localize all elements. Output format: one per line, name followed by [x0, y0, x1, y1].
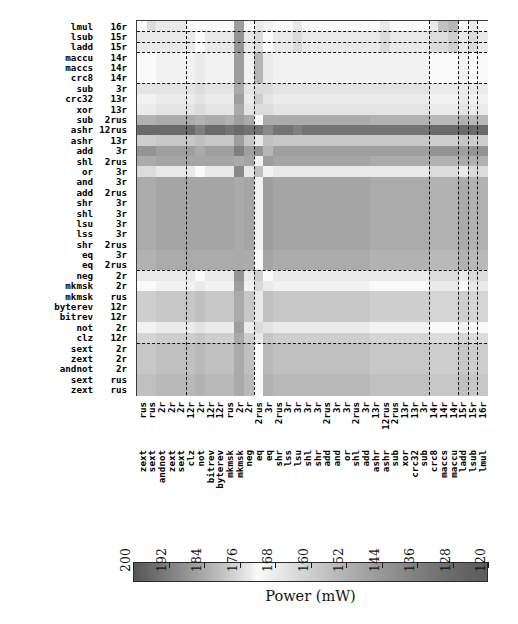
row-label: andnot2r: [0, 363, 130, 374]
row-label: shr2rus: [0, 239, 130, 250]
row-label-op: maccu: [65, 52, 93, 63]
row-label-size: 14r: [110, 72, 127, 83]
row-label: xor13r: [0, 104, 130, 115]
row-label-op: zext: [71, 384, 93, 395]
dashed-row-separator: [137, 270, 487, 271]
heatmap-plot[interactable]: [136, 20, 488, 396]
row-label-size: 3r: [116, 228, 127, 239]
row-label-op: xor: [76, 104, 93, 115]
row-label: add3r: [0, 145, 130, 156]
heatmap-cell: [477, 156, 487, 167]
heatmap-cell: [477, 187, 487, 198]
row-label-op: mkmsk: [65, 291, 93, 302]
heatmap-cell: [477, 364, 487, 375]
row-label-size: 12rus: [99, 124, 127, 135]
column-label-size: 16r: [476, 402, 487, 419]
row-label-op: add: [76, 145, 93, 156]
row-label-op: mkmsk: [65, 280, 93, 291]
heatmap-cell: [477, 104, 487, 115]
row-label-op: bitrev: [60, 311, 93, 322]
heatmap-cell: [477, 281, 487, 292]
row-label: bitrev12r: [0, 311, 130, 322]
heatmap-cell: [477, 374, 487, 385]
row-label-size: 2rus: [105, 156, 127, 167]
row-label: lsub15r: [0, 31, 130, 42]
heatmap-cell: [477, 31, 487, 42]
dashed-col-separator: [468, 21, 469, 395]
row-label-op: shr: [76, 239, 93, 250]
row-label-size: 15r: [110, 41, 127, 52]
dashed-col-separator: [477, 21, 478, 395]
row-label-size: 13r: [110, 104, 127, 115]
row-label-size: 14r: [110, 62, 127, 73]
heatmap-cell: [477, 83, 487, 94]
row-label: add2rus: [0, 187, 130, 198]
colorbar-tick-label: 136: [402, 540, 417, 580]
heatmap-cell: [477, 229, 487, 240]
row-label-size: 2r: [116, 280, 127, 291]
row-label-size: 2r: [116, 353, 127, 364]
row-label: eq3r: [0, 249, 130, 260]
colorbar-tick-label: 152: [331, 540, 346, 580]
heatmap-cell: [477, 312, 487, 323]
heatmap-cell: [477, 125, 487, 136]
row-label-size: 2rus: [105, 259, 127, 270]
heatmap-cell: [477, 115, 487, 126]
row-label: mkmskrus: [0, 291, 130, 302]
dashed-col-separator: [254, 21, 255, 395]
heatmap-cells: [137, 21, 487, 395]
colorbar-tick: [133, 562, 134, 568]
colorbar-tick-label: 184: [189, 540, 204, 580]
row-label-size: 3r: [116, 166, 127, 177]
heatmap-cell: [477, 63, 487, 74]
row-label-op: lsub: [71, 31, 93, 42]
colorbar-tick: [488, 562, 489, 568]
colorbar-tick-label: 192: [154, 540, 169, 580]
row-label-op: ashr: [71, 124, 93, 135]
row-label: ladd15r: [0, 41, 130, 52]
row-label-size: 3r: [116, 249, 127, 260]
heatmap-cell: [477, 146, 487, 157]
heatmap-cell: [477, 21, 487, 32]
dashed-row-separator: [137, 52, 487, 53]
row-label-size: rus: [110, 384, 127, 395]
dashed-row-separator: [137, 343, 487, 344]
colorbar-tick: [204, 562, 205, 568]
row-label-op: maccs: [65, 62, 93, 73]
dashed-row-separator: [137, 42, 487, 43]
row-label: byterev12r: [0, 301, 130, 312]
heatmap-cell: [477, 322, 487, 333]
row-label-op: andnot: [60, 363, 93, 374]
row-label-size: 13r: [110, 135, 127, 146]
row-label-op: and: [76, 176, 93, 187]
row-label-op: lss: [76, 228, 93, 239]
row-label: sextrus: [0, 374, 130, 385]
figure-root: lmul16rlsub15rladd15rmaccu14rmaccs14rcrc…: [0, 0, 518, 624]
heatmap-cell: [477, 42, 487, 53]
row-label-size: rus: [110, 291, 127, 302]
row-label: crc814r: [0, 72, 130, 83]
colorbar-tick: [417, 562, 418, 568]
row-label-op: ladd: [71, 41, 93, 52]
dashed-row-separator: [137, 31, 487, 32]
dashed-col-separator: [429, 21, 430, 395]
row-label-op: eq: [82, 259, 93, 270]
row-label-size: 15r: [110, 31, 127, 42]
row-label: clz12r: [0, 332, 130, 343]
heatmap-cell: [477, 302, 487, 313]
row-label: sub3r: [0, 83, 130, 94]
colorbar-title: Power (mW): [133, 588, 488, 604]
row-label-op: or: [82, 166, 93, 177]
heatmap-cell: [477, 385, 487, 396]
row-label-op: shl: [76, 156, 93, 167]
colorbar-tick: [275, 562, 276, 568]
colorbar-tick-label: 144: [367, 540, 382, 580]
heatmap-cell: [477, 291, 487, 302]
row-label: lmul16r: [0, 21, 130, 32]
row-label-op: eq: [82, 249, 93, 260]
row-label-size: 13r: [110, 93, 127, 104]
dashed-col-separator: [458, 21, 459, 395]
colorbar-tick-label: 176: [225, 540, 240, 580]
colorbar-tick-label: 200: [118, 540, 133, 580]
row-label: shl2rus: [0, 156, 130, 167]
